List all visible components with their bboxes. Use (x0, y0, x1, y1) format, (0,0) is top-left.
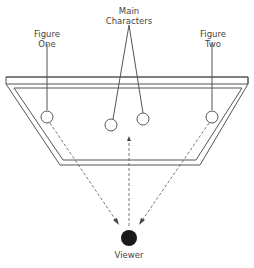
sightline-right (141, 123, 209, 222)
arrowhead-left (113, 218, 119, 225)
figure-one-circle (41, 111, 53, 123)
main-characters-label: Main Characters (94, 6, 164, 26)
figure-one-label: Figure One (12, 29, 82, 49)
main-character-left-circle (105, 119, 117, 131)
stage-inner (14, 88, 242, 160)
main-pointer-right (129, 25, 143, 113)
main-character-right-circle (137, 113, 149, 125)
figure-two-label: Figure Two (178, 29, 248, 49)
viewer-label: Viewer (94, 250, 164, 260)
figure-two-circle (206, 111, 218, 123)
viewer-dot (121, 230, 137, 246)
sightline-left (50, 123, 117, 222)
arrowhead-center (127, 136, 131, 141)
main-pointer-left (113, 25, 129, 119)
arrowhead-right (139, 218, 145, 225)
